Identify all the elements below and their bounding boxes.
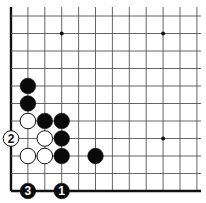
black-stone — [54, 148, 70, 164]
stone-disc — [54, 131, 70, 147]
stone-disc — [37, 131, 53, 147]
black-stone-1: 1 — [54, 183, 70, 199]
black-stone — [54, 131, 70, 147]
grid-lines — [11, 7, 201, 191]
white-stone — [37, 131, 53, 147]
black-stone-3: 3 — [20, 183, 36, 199]
move-number-label: 2 — [8, 132, 15, 146]
stone-disc — [37, 148, 53, 164]
black-stone — [54, 113, 70, 129]
stone-disc — [54, 113, 70, 129]
white-stone — [20, 113, 36, 129]
white-stone — [20, 148, 36, 164]
stone-disc — [88, 148, 104, 164]
stone-disc — [20, 96, 36, 112]
stone-disc — [20, 78, 36, 94]
stone-disc — [37, 113, 53, 129]
stone-disc — [20, 113, 36, 129]
black-stone — [20, 78, 36, 94]
white-stone — [37, 148, 53, 164]
move-number-label: 1 — [58, 184, 65, 198]
black-stone — [88, 148, 104, 164]
move-number-label: 3 — [25, 184, 32, 198]
star-point — [161, 137, 165, 141]
star-point — [161, 32, 165, 36]
white-stone-2: 2 — [3, 131, 19, 147]
stone-disc — [20, 148, 36, 164]
black-stone — [37, 113, 53, 129]
black-stone — [20, 96, 36, 112]
star-point — [60, 32, 64, 36]
stone-disc — [54, 148, 70, 164]
go-board: 231 — [0, 0, 206, 203]
